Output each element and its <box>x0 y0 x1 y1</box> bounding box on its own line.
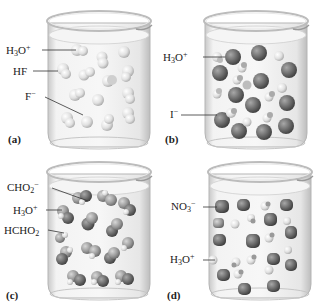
label-formate-ion: CHO2− <box>7 181 39 193</box>
panel-d-nitric-acid-solution: NO3− H3O+ (d) <box>157 153 314 306</box>
panel-a-hf-solution: H3O+ HF F− (a) <box>0 0 157 153</box>
label-hf: HF <box>13 65 27 77</box>
label-h3o-plus: H3O+ <box>13 204 37 216</box>
label-f-minus: F− <box>25 90 36 102</box>
leader-lines-b <box>157 0 314 153</box>
caption-c: (c) <box>6 289 18 301</box>
leader-lines-d <box>157 153 314 306</box>
caption-b: (b) <box>165 133 178 145</box>
label-nitrate-ion: NO3− <box>171 200 195 212</box>
panel-c-formic-acid-solution: CHO2− H3O+ HCHO2 (c) <box>0 153 157 306</box>
label-i-minus: I− <box>170 108 178 120</box>
caption-d: (d) <box>167 289 180 301</box>
label-h3o-plus: H3O+ <box>170 253 194 265</box>
panel-b-hi-solution: H3O+ I− (b) <box>157 0 314 153</box>
label-formic-acid: HCHO2 <box>4 224 39 236</box>
caption-a: (a) <box>8 133 21 145</box>
label-h3o-plus: H3O+ <box>163 51 187 63</box>
label-h3o-plus: H3O+ <box>6 44 30 56</box>
